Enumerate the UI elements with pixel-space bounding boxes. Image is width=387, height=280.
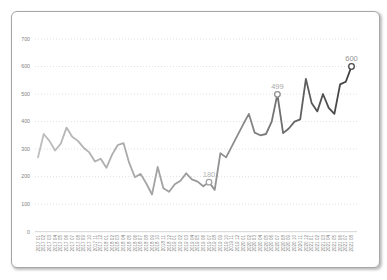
x-axis-label: 2017 07 (70, 235, 75, 252)
x-axis-label: 2020 10 (292, 235, 297, 252)
x-axis-label: 2019 12 (235, 235, 240, 252)
x-axis-label: 2018 06 (133, 235, 138, 252)
line-chart: 01002003004005006007002017 012017 022017… (0, 0, 387, 280)
x-axis-label: 2019 02 (178, 235, 183, 252)
x-axis-label: 2021 07 (343, 235, 348, 252)
data-point-marker (275, 92, 281, 98)
x-axis-label: 2018 05 (127, 235, 132, 252)
x-axis-label: 2017 06 (64, 235, 69, 252)
x-axis-label: 2018 03 (115, 235, 120, 252)
y-axis-label: 0 (27, 229, 30, 235)
x-axis-label: 2019 05 (195, 235, 200, 252)
x-axis-label: 2018 12 (167, 235, 172, 252)
x-axis-label: 2021 05 (332, 235, 337, 252)
x-axis-label: 2020 08 (281, 235, 286, 252)
x-axis-label: 2017 08 (76, 235, 81, 252)
x-axis-label: 2018 11 (161, 235, 166, 252)
data-point-marker (349, 64, 355, 70)
x-axis-label: 2020 12 (304, 235, 309, 252)
data-line (38, 67, 352, 195)
x-axis-label: 2017 11 (93, 235, 98, 252)
x-axis-label: 2019 10 (224, 235, 229, 252)
x-axis-label: 2019 11 (229, 235, 234, 252)
x-axis-label: 2017 04 (53, 235, 58, 252)
x-axis-label: 2019 06 (201, 235, 206, 252)
data-point-marker (206, 179, 212, 185)
y-axis-label: 300 (21, 146, 30, 152)
x-axis-label: 2017 01 (36, 235, 41, 252)
x-axis-label: 2019 09 (218, 235, 223, 252)
x-axis-label: 2017 02 (41, 235, 46, 252)
x-axis-label: 2017 12 (98, 235, 103, 252)
x-axis-label: 2019 08 (212, 235, 217, 252)
x-axis-label: 2017 10 (87, 235, 92, 252)
x-axis-label: 2020 06 (269, 235, 274, 252)
x-axis-label: 2020 03 (252, 235, 257, 252)
x-axis-label: 2020 11 (298, 235, 303, 252)
y-axis-label: 700 (21, 36, 30, 42)
x-axis-label: 2021 01 (309, 235, 314, 252)
y-axis-label: 100 (21, 201, 30, 207)
x-axis-label: 2020 09 (286, 235, 291, 252)
x-axis-label: 2018 07 (138, 235, 143, 252)
x-axis-label: 2020 05 (264, 235, 269, 252)
y-axis-label: 200 (21, 173, 30, 179)
x-axis-label: 2020 07 (275, 235, 280, 252)
x-axis-label: 2020 02 (247, 235, 252, 252)
x-axis-label: 2018 01 (104, 235, 109, 252)
x-axis-label: 2019 03 (184, 235, 189, 252)
data-point-label: 600 (345, 54, 358, 63)
x-axis-label: 2020 04 (258, 235, 263, 252)
x-axis-label: 2021 06 (338, 235, 343, 252)
x-axis-label: 2021 03 (321, 235, 326, 252)
x-axis-label: 2020 01 (241, 235, 246, 252)
data-point-label: 499 (271, 82, 284, 91)
x-axis-label: 2021 02 (315, 235, 320, 252)
x-axis-label: 2018 09 (150, 235, 155, 252)
x-axis-label: 2018 08 (144, 235, 149, 252)
x-axis-label: 2017 03 (47, 235, 52, 252)
data-point-label: 180 (203, 170, 216, 179)
x-axis-label: 2021 08 (349, 235, 354, 252)
x-axis-label: 2019 04 (190, 235, 195, 252)
x-axis-label: 2018 02 (110, 235, 115, 252)
x-axis-label: 2019 07 (207, 235, 212, 252)
x-axis-label: 2017 09 (81, 235, 86, 252)
y-axis-label: 400 (21, 118, 30, 124)
y-axis-label: 600 (21, 63, 30, 69)
y-axis-label: 500 (21, 91, 30, 97)
x-axis-label: 2018 04 (121, 235, 126, 252)
x-axis-label: 2019 01 (172, 235, 177, 252)
x-axis-label: 2017 05 (58, 235, 63, 252)
x-axis-label: 2018 10 (155, 235, 160, 252)
x-axis-label: 2021 04 (326, 235, 331, 252)
